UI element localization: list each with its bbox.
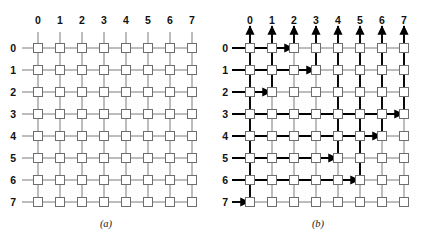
grid-node[interactable] (334, 110, 343, 119)
grid-node[interactable] (100, 154, 109, 163)
grid-node[interactable] (144, 154, 153, 163)
grid-node[interactable] (100, 132, 109, 141)
grid-node[interactable] (334, 88, 343, 97)
grid-node[interactable] (188, 66, 197, 75)
grid-node[interactable] (56, 66, 65, 75)
grid-node[interactable] (166, 66, 175, 75)
grid-node[interactable] (122, 198, 131, 207)
grid-node[interactable] (290, 66, 299, 75)
grid-node[interactable] (246, 198, 255, 207)
grid-node[interactable] (268, 154, 277, 163)
grid-node[interactable] (78, 132, 87, 141)
grid-node[interactable] (378, 88, 387, 97)
grid-node[interactable] (122, 154, 131, 163)
grid-node[interactable] (290, 154, 299, 163)
grid-node[interactable] (166, 132, 175, 141)
grid-node[interactable] (356, 176, 365, 185)
grid-node[interactable] (290, 132, 299, 141)
grid-node[interactable] (122, 44, 131, 53)
grid-node[interactable] (356, 44, 365, 53)
grid-node[interactable] (334, 66, 343, 75)
grid-node[interactable] (34, 110, 43, 119)
grid-node[interactable] (356, 88, 365, 97)
grid-node[interactable] (144, 176, 153, 185)
grid-node[interactable] (78, 110, 87, 119)
grid-node[interactable] (188, 110, 197, 119)
grid-node[interactable] (356, 154, 365, 163)
grid-node[interactable] (290, 176, 299, 185)
grid-node[interactable] (246, 176, 255, 185)
grid-node[interactable] (34, 176, 43, 185)
grid-node[interactable] (246, 44, 255, 53)
grid-node[interactable] (334, 154, 343, 163)
grid-node[interactable] (334, 132, 343, 141)
grid-node[interactable] (100, 110, 109, 119)
grid-node[interactable] (34, 88, 43, 97)
grid-node[interactable] (356, 198, 365, 207)
grid-node[interactable] (246, 110, 255, 119)
grid-node[interactable] (246, 66, 255, 75)
grid-node[interactable] (34, 44, 43, 53)
grid-node[interactable] (268, 132, 277, 141)
grid-node[interactable] (400, 132, 409, 141)
grid-node[interactable] (400, 44, 409, 53)
grid-node[interactable] (56, 154, 65, 163)
grid-node[interactable] (78, 44, 87, 53)
grid-node[interactable] (268, 176, 277, 185)
grid-node[interactable] (100, 88, 109, 97)
grid-node[interactable] (334, 44, 343, 53)
grid-node[interactable] (56, 88, 65, 97)
grid-node[interactable] (400, 198, 409, 207)
grid-node[interactable] (378, 44, 387, 53)
grid-node[interactable] (122, 66, 131, 75)
grid-node[interactable] (378, 66, 387, 75)
grid-node[interactable] (268, 88, 277, 97)
grid-node[interactable] (312, 44, 321, 53)
grid-node[interactable] (378, 154, 387, 163)
grid-node[interactable] (78, 66, 87, 75)
grid-node[interactable] (34, 198, 43, 207)
grid-node[interactable] (400, 154, 409, 163)
grid-node[interactable] (166, 176, 175, 185)
grid-node[interactable] (334, 198, 343, 207)
grid-node[interactable] (312, 154, 321, 163)
grid-node[interactable] (56, 198, 65, 207)
grid-node[interactable] (290, 110, 299, 119)
grid-node[interactable] (312, 132, 321, 141)
grid-node[interactable] (268, 66, 277, 75)
grid-node[interactable] (122, 176, 131, 185)
grid-node[interactable] (312, 198, 321, 207)
grid-node[interactable] (188, 132, 197, 141)
grid-node[interactable] (166, 44, 175, 53)
grid-node[interactable] (78, 198, 87, 207)
grid-node[interactable] (144, 110, 153, 119)
grid-node[interactable] (356, 110, 365, 119)
grid-node[interactable] (378, 176, 387, 185)
grid-node[interactable] (56, 44, 65, 53)
grid-node[interactable] (78, 88, 87, 97)
grid-node[interactable] (100, 66, 109, 75)
grid-node[interactable] (246, 132, 255, 141)
grid-node[interactable] (312, 176, 321, 185)
grid-node[interactable] (122, 88, 131, 97)
grid-node[interactable] (312, 66, 321, 75)
grid-node[interactable] (78, 154, 87, 163)
grid-node[interactable] (312, 88, 321, 97)
grid-node[interactable] (400, 88, 409, 97)
grid-node[interactable] (356, 66, 365, 75)
grid-node[interactable] (378, 198, 387, 207)
grid-node[interactable] (268, 44, 277, 53)
grid-node[interactable] (312, 110, 321, 119)
grid-node[interactable] (78, 176, 87, 185)
grid-node[interactable] (246, 154, 255, 163)
grid-node[interactable] (144, 132, 153, 141)
grid-node[interactable] (166, 110, 175, 119)
grid-node[interactable] (100, 44, 109, 53)
grid-node[interactable] (188, 44, 197, 53)
grid-node[interactable] (400, 110, 409, 119)
grid-node[interactable] (144, 198, 153, 207)
grid-node[interactable] (56, 110, 65, 119)
grid-node[interactable] (246, 88, 255, 97)
grid-node[interactable] (122, 132, 131, 141)
grid-node[interactable] (166, 154, 175, 163)
